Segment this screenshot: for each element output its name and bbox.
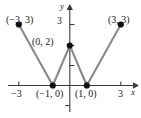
point-0-2 bbox=[67, 42, 73, 48]
point-label-0-2: (0, 2) bbox=[32, 37, 54, 47]
y-axis bbox=[67, 4, 73, 112]
x-tick-label-neg3: −3 bbox=[11, 89, 22, 99]
x-tick-label-pos1: (1, 0) bbox=[75, 89, 97, 99]
y-axis-label: y bbox=[60, 2, 64, 11]
x-tick-label-pos3: 3 bbox=[118, 89, 123, 99]
y-tick-label-3: 3 bbox=[57, 16, 62, 26]
point-label-3-3: (3, 3) bbox=[108, 15, 130, 25]
coordinate-graph-figure: (−3, 3) (3, 3) (0, 2) −3 (−1, 0) (1, 0) … bbox=[0, 0, 141, 118]
point-label-neg3-3: (−3, 3) bbox=[6, 15, 33, 25]
x-tick-label-neg1: (−1, 0) bbox=[36, 89, 63, 99]
x-axis-label: x bbox=[131, 88, 135, 97]
